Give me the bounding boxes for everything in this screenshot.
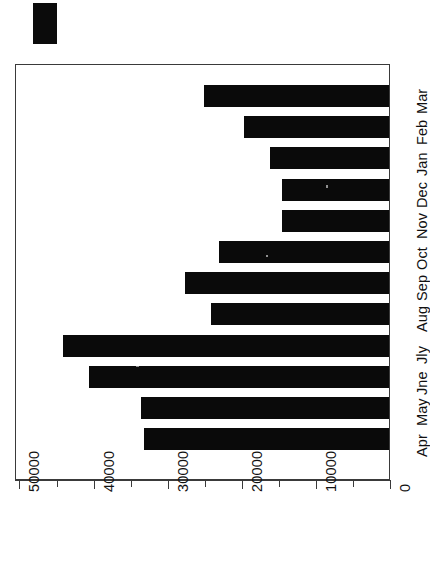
value-label-10000: 10000 xyxy=(323,451,339,492)
bar-aug xyxy=(14,303,389,325)
bar-jly xyxy=(14,335,389,357)
legend-swatch-icon xyxy=(33,3,57,44)
value-tick-25000 xyxy=(205,480,206,487)
category-axis-labels: AprMayJneJlyAugSepOctNovDecJanFebMar xyxy=(392,64,421,480)
value-tick-5000 xyxy=(353,480,354,487)
bar-fill-aug xyxy=(211,303,389,325)
value-axis-tick-labels: 01000020000300004000050000 xyxy=(0,492,421,577)
bar-apr xyxy=(14,428,389,450)
category-label-apr: Apr xyxy=(414,434,430,457)
bar-fill-mar xyxy=(204,85,389,107)
value-tick-15000 xyxy=(279,480,280,487)
bar-fill-feb xyxy=(244,116,389,138)
value-tick-40000 xyxy=(94,480,95,489)
value-tick-45000 xyxy=(57,480,58,487)
bar-feb xyxy=(14,116,389,138)
category-label-nov: Nov xyxy=(414,213,430,239)
chart-legend xyxy=(33,3,57,44)
bar-may xyxy=(14,397,389,419)
category-label-jne: Jne xyxy=(414,371,430,395)
bar-fill-jly xyxy=(63,335,389,357)
plot-area xyxy=(15,64,390,480)
category-label-feb: Feb xyxy=(414,120,430,145)
bar-jan xyxy=(14,147,389,169)
bar-nov xyxy=(14,210,389,232)
bar-fill-jan xyxy=(270,147,389,169)
category-label-jly: Jly xyxy=(414,346,430,364)
bar-fill-dec xyxy=(282,179,389,201)
category-label-dec: Dec xyxy=(414,182,430,208)
bar-dec xyxy=(14,179,389,201)
bar-fill-may xyxy=(141,397,389,419)
value-tick-10000 xyxy=(316,480,317,489)
value-tick-0 xyxy=(390,480,391,489)
bar-mar xyxy=(14,85,389,107)
value-tick-50000 xyxy=(19,480,20,489)
bar-jne xyxy=(14,366,389,388)
value-label-30000: 30000 xyxy=(175,451,191,492)
bar-fill-apr xyxy=(144,428,389,450)
bar-fill-oct xyxy=(219,241,389,263)
category-label-sep: Sep xyxy=(414,275,430,301)
value-tick-35000 xyxy=(131,480,132,487)
value-label-0: 0 xyxy=(397,484,413,492)
value-tick-20000 xyxy=(242,480,243,489)
value-label-40000: 40000 xyxy=(101,451,117,492)
value-label-50000: 50000 xyxy=(26,451,42,492)
bar-fill-jne xyxy=(89,366,389,388)
category-label-jan: Jan xyxy=(414,153,430,177)
value-tick-30000 xyxy=(168,480,169,489)
bar-oct xyxy=(14,241,389,263)
category-label-aug: Aug xyxy=(414,306,430,332)
category-label-mar: Mar xyxy=(414,89,430,114)
category-label-oct: Oct xyxy=(414,247,430,270)
bar-fill-sep xyxy=(185,272,389,294)
bar-sep xyxy=(14,272,389,294)
category-label-may: May xyxy=(414,398,430,426)
bar-fill-nov xyxy=(282,210,389,232)
value-label-20000: 20000 xyxy=(249,451,265,492)
